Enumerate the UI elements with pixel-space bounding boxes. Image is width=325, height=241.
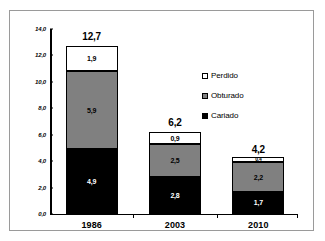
y-axis-tick-mark	[50, 161, 53, 162]
plot-area: 0,02,04,06,08,010,012,014,0 4,95,91,912,…	[50, 29, 300, 214]
bar-segment-perdido[interactable]: 0,4	[232, 157, 284, 162]
stacked-bar[interactable]: 4,95,91,9	[66, 46, 118, 214]
legend-item[interactable]: Obturado	[202, 91, 244, 100]
bar-segment-obturado[interactable]: 5,9	[66, 71, 118, 149]
legend-item[interactable]: Cariado	[202, 111, 244, 120]
y-axis-tick-mark	[50, 108, 53, 109]
y-axis-tick-label: 2,0	[38, 185, 46, 191]
y-axis-tick-label: 4,0	[38, 158, 46, 164]
y-axis-tick-mark	[50, 55, 53, 56]
y-axis-tick-mark	[50, 29, 53, 30]
bar-segment-obturado[interactable]: 2,2	[232, 162, 284, 191]
x-axis-category-label: 1986	[50, 220, 133, 230]
bar-segment-value-label: 1,9	[87, 55, 96, 62]
bar-group[interactable]: 2,82,50,96,2	[149, 29, 201, 214]
bar-total-label: 12,7	[66, 31, 118, 42]
x-axis-tick-mark	[297, 214, 298, 218]
bar-segment-value-label: 2,5	[170, 157, 179, 164]
x-axis-tick-mark	[217, 214, 218, 218]
bar-segment-value-label: 4,9	[87, 178, 96, 185]
stacked-bar[interactable]: 1,72,20,4	[232, 157, 284, 214]
legend-item[interactable]: Perdido	[202, 71, 244, 80]
y-axis-tick-label: 14,0	[35, 26, 46, 32]
chart-frame: 0,02,04,06,08,010,012,014,0 4,95,91,912,…	[9, 10, 314, 231]
y-axis-tick-label: 6,0	[38, 132, 46, 138]
bar-segment-cariado[interactable]: 4,9	[66, 149, 118, 214]
x-axis-tick-mark	[133, 214, 134, 218]
bar-total-label: 6,2	[149, 117, 201, 128]
y-axis-tick-mark	[50, 81, 53, 82]
bar-segment-value-label: 2,8	[170, 192, 179, 199]
bar-segment-value-label: 2,2	[254, 174, 263, 181]
bar-segment-value-label: 0,9	[170, 135, 179, 142]
bar-segment-obturado[interactable]: 2,5	[149, 144, 201, 177]
bar-segment-value-label: 5,9	[87, 107, 96, 114]
y-axis-tick-label: 12,0	[35, 52, 46, 58]
y-axis-tick-label: 8,0	[38, 105, 46, 111]
stacked-bar[interactable]: 2,82,50,9	[149, 132, 201, 214]
legend-item-label: Perdido	[211, 72, 238, 80]
bar-segment-value-label: 1,7	[254, 199, 263, 206]
bar-segment-perdido[interactable]: 1,9	[66, 46, 118, 71]
x-axis-line	[50, 214, 297, 215]
legend-item-label: Cariado	[211, 112, 238, 120]
y-axis-tick-label: 0,0	[38, 211, 46, 217]
bar-segment-cariado[interactable]: 1,7	[232, 192, 284, 214]
bar-segment-perdido[interactable]: 0,9	[149, 132, 201, 144]
y-axis-tick-mark	[50, 134, 53, 135]
gray-square-icon	[202, 93, 208, 99]
bar-group[interactable]: 4,95,91,912,7	[66, 29, 118, 214]
bar-segment-value-label: 0,4	[255, 157, 261, 162]
bar-segment-cariado[interactable]: 2,8	[149, 177, 201, 214]
y-axis-tick-mark	[50, 214, 53, 215]
legend-item-label: Obturado	[211, 92, 244, 100]
y-axis-tick-mark	[50, 187, 53, 188]
white-square-icon	[202, 73, 208, 79]
x-axis-category-label: 2010	[217, 220, 300, 230]
y-axis-tick-label: 10,0	[35, 79, 46, 85]
chart-legend: PerdidoObturadoCariado	[202, 71, 244, 131]
bar-total-label: 4,2	[232, 144, 284, 155]
black-square-icon	[202, 113, 208, 119]
x-axis-category-label: 2003	[133, 220, 216, 230]
